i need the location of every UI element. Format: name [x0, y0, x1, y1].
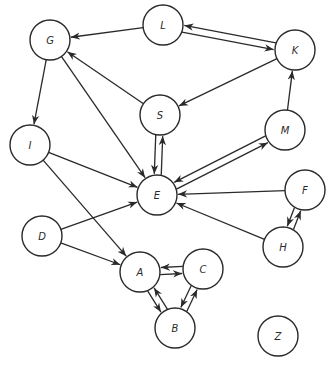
node-f: F — [285, 170, 325, 210]
node-b: B — [155, 308, 195, 348]
edge-f-to-h — [287, 207, 294, 226]
node-g: G — [30, 20, 70, 60]
node-label: H — [279, 242, 287, 253]
node-label: Z — [274, 331, 283, 342]
node-l: L — [143, 5, 183, 45]
node-z: Z — [258, 316, 298, 356]
node-label: F — [302, 185, 308, 196]
edge-e-to-s — [161, 136, 162, 175]
node-label: A — [136, 267, 144, 278]
node-label: S — [157, 110, 164, 121]
node-label: C — [200, 264, 207, 275]
directed-graph: GLKSIMEFDHACBZ — [0, 0, 332, 365]
edge-k-to-l — [184, 25, 276, 42]
node-d: D — [22, 216, 62, 256]
node-h: H — [263, 227, 303, 267]
nodes-layer: GLKSIMEFDHACBZ — [10, 5, 325, 356]
node-label: M — [281, 125, 290, 136]
node-c: C — [183, 249, 223, 289]
edge-h-to-e — [176, 203, 264, 239]
edge-e-to-m — [176, 143, 267, 189]
node-label: I — [29, 140, 32, 151]
edge-l-to-g — [71, 28, 143, 38]
node-m: M — [265, 110, 305, 150]
edge-g-to-i — [34, 60, 46, 125]
edge-l-to-k — [182, 32, 274, 49]
edge-f-to-e — [178, 191, 285, 195]
node-label: D — [38, 231, 46, 242]
edge-c-to-a — [161, 266, 183, 267]
node-s: S — [140, 95, 180, 135]
node-a: A — [120, 252, 160, 292]
edge-a-to-c — [160, 273, 182, 274]
edge-h-to-f — [293, 211, 300, 230]
node-e: E — [137, 175, 177, 215]
edge-s-to-g — [67, 52, 143, 104]
edge-d-to-a — [61, 243, 121, 265]
edge-s-to-e — [154, 135, 155, 174]
edge-b-to-a — [154, 288, 167, 309]
node-label: L — [160, 20, 166, 31]
edge-g-to-e — [61, 56, 145, 177]
edge-m-to-e — [174, 136, 265, 182]
edge-a-to-b — [148, 291, 161, 312]
edge-m-to-k — [287, 71, 292, 110]
node-label: E — [154, 190, 161, 201]
node-i: I — [10, 125, 50, 165]
node-label: B — [172, 323, 179, 334]
edge-k-to-s — [179, 59, 277, 106]
edges-layer — [34, 25, 301, 312]
node-label: G — [46, 35, 54, 46]
node-k: K — [275, 30, 315, 70]
